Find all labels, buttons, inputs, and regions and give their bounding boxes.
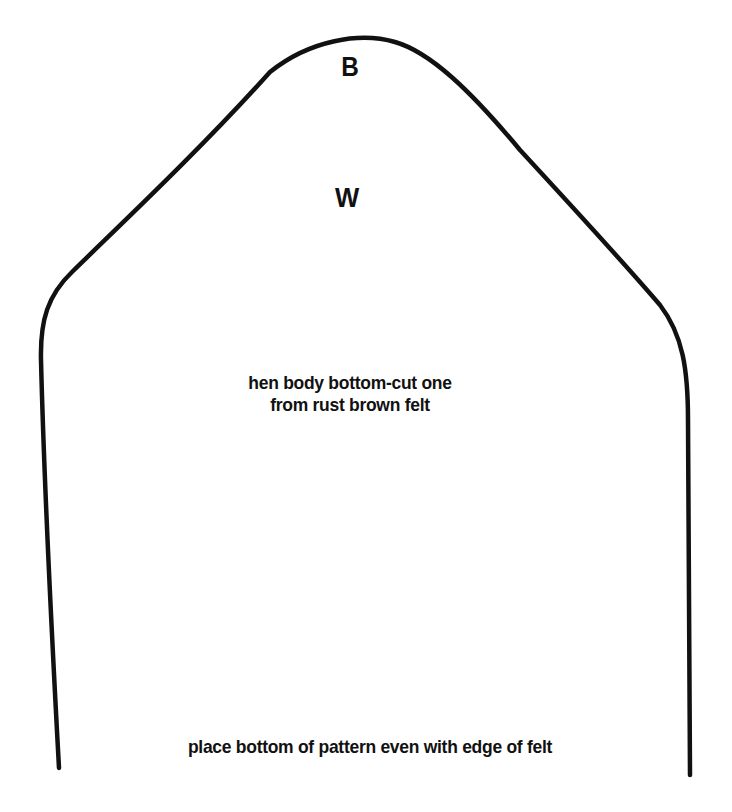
mark-b-label: B (332, 52, 368, 83)
mark-w-label: W (328, 183, 366, 214)
cutting-instructions: hen body bottom-cut one from rust brown … (166, 372, 534, 416)
instruction-line-2: from rust brown felt (166, 394, 534, 416)
placement-note: place bottom of pattern even with edge o… (122, 736, 619, 758)
instruction-line-1: hen body bottom-cut one (166, 372, 534, 394)
